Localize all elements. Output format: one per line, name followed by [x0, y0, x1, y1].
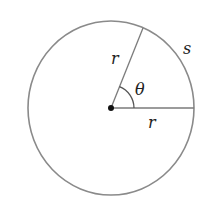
label-radius-lower: r: [148, 113, 157, 132]
diagram-svg: r r θ s: [0, 0, 205, 203]
center-dot: [108, 105, 114, 111]
circle-diagram: r r θ s: [0, 0, 205, 203]
label-arc-length: s: [183, 39, 191, 58]
angle-arc: [120, 87, 135, 108]
label-angle-theta: θ: [135, 80, 145, 99]
label-radius-upper: r: [111, 49, 120, 68]
